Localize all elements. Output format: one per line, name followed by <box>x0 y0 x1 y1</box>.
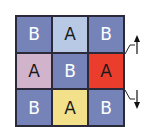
grid-cell-r1c1: B <box>16 16 52 53</box>
arrow-up-icon <box>124 34 142 56</box>
grid-cell-r3c1: B <box>16 89 52 126</box>
cell-label: B <box>100 98 112 118</box>
cell-label: A <box>64 98 76 118</box>
cell-label: B <box>28 24 40 44</box>
arrow-down-icon <box>124 88 142 110</box>
cell-label: B <box>100 24 112 44</box>
cell-label: B <box>28 98 40 118</box>
grid-cell-r3c3: B <box>88 89 124 126</box>
grid-cell-r1c3: B <box>88 16 124 53</box>
grid-cell-r2c3: A <box>88 53 124 90</box>
grid-cell-r1c2: A <box>52 16 88 53</box>
cell-label: A <box>28 61 40 81</box>
grid-cell-r3c2: A <box>52 89 88 126</box>
cell-label: A <box>64 24 76 44</box>
cell-label: A <box>100 61 112 81</box>
cell-label: B <box>64 61 76 81</box>
checkerboard-grid: B A B A B A B A B <box>15 15 125 127</box>
grid-cell-r2c1: A <box>16 53 52 90</box>
grid-cell-r2c2: B <box>52 53 88 90</box>
